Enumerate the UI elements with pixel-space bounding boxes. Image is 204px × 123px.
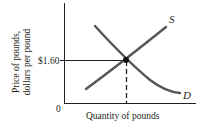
demand-label: D (182, 89, 191, 101)
y-axis-label-line2: dollars per pound (22, 29, 32, 96)
price-tick-label: $1.60 (38, 56, 60, 66)
supply-demand-diagram: S D $1.60 0 Quantity of pounds Price of … (0, 0, 204, 123)
demand-curve (95, 26, 180, 93)
origin-label: 0 (56, 104, 61, 114)
x-axis-label: Quantity of pounds (86, 111, 160, 121)
supply-label: S (169, 13, 175, 25)
equilibrium-point (123, 57, 129, 63)
y-axis-label-line1: Price of pounds, (11, 31, 21, 93)
